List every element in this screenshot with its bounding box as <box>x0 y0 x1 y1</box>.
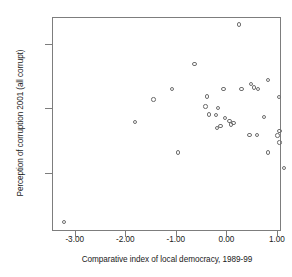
data-point <box>151 97 155 101</box>
data-point <box>176 150 180 154</box>
data-point <box>170 87 174 91</box>
data-point <box>275 133 279 137</box>
data-point <box>216 106 220 110</box>
data-point <box>266 78 270 82</box>
x-tick-label: -3.00 <box>53 236 97 244</box>
data-point <box>277 140 281 144</box>
data-point <box>133 120 137 124</box>
x-tick-mark <box>176 231 177 237</box>
x-tick-mark <box>75 231 76 237</box>
x-tick-mark <box>277 231 278 237</box>
data-point <box>282 166 286 170</box>
data-point <box>277 95 281 99</box>
data-point <box>192 62 196 66</box>
data-point <box>203 104 207 108</box>
x-tick-label: -1.00 <box>154 236 198 244</box>
data-point <box>277 129 281 133</box>
plot-area <box>52 17 281 231</box>
data-point <box>247 133 251 137</box>
data-point <box>221 87 225 91</box>
y-tick-mark <box>45 108 52 109</box>
data-point <box>237 22 241 26</box>
x-tick-mark <box>226 231 227 237</box>
data-point <box>214 113 218 117</box>
data-point <box>205 94 209 98</box>
data-point <box>255 133 259 137</box>
x-tick-label: 1.00 <box>255 236 292 244</box>
data-point <box>262 115 266 119</box>
data-point <box>239 87 243 91</box>
data-point <box>62 220 66 224</box>
x-tick-label: 0.00 <box>204 236 248 244</box>
data-point <box>231 121 235 125</box>
x-axis-title: Comparative index of local democracy, 19… <box>52 255 282 264</box>
data-point <box>266 150 270 154</box>
data-point <box>207 112 211 116</box>
x-tick-mark <box>125 231 126 237</box>
y-tick-mark <box>45 44 52 45</box>
x-tick-label: -2.00 <box>103 236 147 244</box>
scatter-plot-figure: Perception of corruption 2001 (all corru… <box>0 0 292 277</box>
y-tick-mark <box>45 173 52 174</box>
data-point <box>218 124 222 128</box>
data-point <box>256 87 260 91</box>
y-axis-title: Perception of corruption 2001 (all corru… <box>14 18 28 228</box>
